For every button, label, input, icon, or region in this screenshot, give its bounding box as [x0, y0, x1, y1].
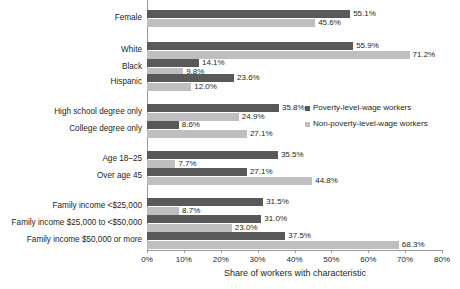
x-axis-tick-label: 30% [250, 254, 266, 265]
x-axis-tick-label: 40% [286, 254, 302, 265]
bar-poverty [147, 232, 285, 240]
bar-poverty [147, 42, 353, 50]
x-axis-tick-label: 0% [141, 254, 153, 265]
category-label: Hispanic [111, 77, 142, 87]
bar-nonpoverty [147, 207, 179, 215]
bar-value-label: 45.6% [315, 17, 341, 28]
bar-value-label: 68.3% [399, 239, 425, 250]
bar-value-label: 8.6% [179, 119, 200, 130]
bar-row: 44.8% [0, 177, 460, 185]
bar-row: 71.2% [0, 51, 460, 59]
x-axis-tick-label: 80% [434, 254, 450, 265]
bar-nonpoverty [147, 51, 410, 59]
bar-poverty [147, 198, 263, 206]
bar-nonpoverty [147, 160, 175, 168]
bar-value-label: 37.5% [285, 230, 311, 241]
bar-row: 23.6% [0, 74, 460, 82]
category-label: High school degree only [54, 107, 142, 117]
bar-nonpoverty [147, 224, 232, 232]
x-axis-tick [405, 250, 406, 253]
bar-row: 35.5% [0, 151, 460, 159]
bar-value-label: 31.0% [261, 213, 287, 224]
bar-nonpoverty [147, 177, 312, 185]
bar-value-label: 31.5% [263, 196, 289, 207]
bar-row: 55.9% [0, 42, 460, 50]
bar-poverty [147, 151, 278, 159]
bar-nonpoverty [147, 83, 191, 91]
bar-row: 7.7% [0, 160, 460, 168]
x-axis-tick-label: 10% [176, 254, 192, 265]
category-label: Family income $50,000 or more [27, 235, 142, 245]
x-axis-tick [442, 250, 443, 253]
bar-row: 14.1% [0, 59, 460, 67]
x-axis-tick-label: 20% [213, 254, 229, 265]
category-label: Family income $25,000 to <$50,000 [12, 218, 142, 228]
x-axis-tick [258, 250, 259, 253]
category-label: Female [115, 13, 142, 23]
category-label: Black [122, 62, 142, 72]
x-axis-tick [147, 250, 148, 253]
category-label: College degree only [69, 124, 142, 134]
bar-value-label: 27.1% [247, 128, 273, 139]
bar-value-label: 55.9% [353, 40, 379, 51]
legend-label-poverty: Poverty-level-wage workers [313, 103, 411, 113]
category-label: Family income <$25,000 [53, 201, 142, 211]
bar-chart: 55.1%45.6%55.9%71.2%14.1%9.8%23.6%12.0%3… [0, 0, 460, 289]
bar-nonpoverty [147, 130, 247, 138]
x-axis-tick [331, 250, 332, 253]
bar-row: 45.6% [0, 19, 460, 27]
bar-value-label: 23.6% [234, 72, 260, 83]
bar-nonpoverty [147, 19, 315, 27]
legend-item-nonpoverty: Non-poverty-level-wage workers [305, 119, 428, 129]
bar-value-label: 35.8% [279, 102, 305, 113]
bar-value-label: 27.1% [247, 166, 273, 177]
bar-value-label: 44.8% [312, 175, 338, 186]
x-axis-tick [295, 250, 296, 253]
x-axis-tick [184, 250, 185, 253]
bar-nonpoverty [147, 241, 399, 249]
x-axis-tick [368, 250, 369, 253]
legend-swatch-icon [305, 122, 310, 127]
bar-row: 27.1% [0, 168, 460, 176]
category-label: White [121, 45, 142, 55]
bar-value-label: 55.1% [350, 8, 376, 19]
bar-poverty [147, 121, 179, 129]
x-axis-tick-label: 70% [397, 254, 413, 265]
legend-label-nonpoverty: Non-poverty-level-wage workers [313, 119, 428, 129]
legend-swatch-icon [305, 106, 310, 111]
bar-row: 55.1% [0, 10, 460, 18]
bar-row: 12.0% [0, 83, 460, 91]
category-label: Age 18–25 [102, 154, 142, 164]
x-axis-tick [221, 250, 222, 253]
x-axis-tick-label: 60% [360, 254, 376, 265]
chart-legend: Poverty-level-wage workers Non-poverty-l… [305, 103, 428, 135]
x-axis-tick-label: 50% [323, 254, 339, 265]
x-axis-title: Share of workers with characteristic [147, 268, 443, 278]
bar-value-label: 12.0% [191, 81, 217, 92]
legend-item-poverty: Poverty-level-wage workers [305, 103, 428, 113]
category-label: Over age 45 [97, 171, 142, 181]
bar-poverty [147, 168, 247, 176]
bar-value-label: 35.5% [278, 149, 304, 160]
